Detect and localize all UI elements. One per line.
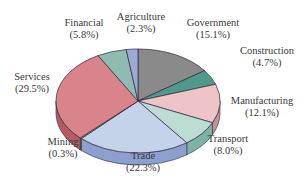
pie-slices — [56, 49, 220, 153]
label-mining: Mining(0.3%) — [48, 136, 80, 160]
label-services: Services(29.5%) — [14, 71, 50, 95]
pie-chart: Government(15.1%) Construction(4.7%) Man… — [0, 0, 304, 184]
label-manufacturing: Manufacturing(12.1%) — [231, 95, 294, 119]
label-financial: Financial(5.8%) — [64, 17, 103, 41]
label-transport: Transport(8.0%) — [208, 133, 249, 157]
label-government: Government(15.1%) — [187, 17, 240, 41]
label-agriculture: Agriculture(2.3%) — [117, 11, 166, 35]
label-construction: Construction(4.7%) — [240, 45, 295, 69]
